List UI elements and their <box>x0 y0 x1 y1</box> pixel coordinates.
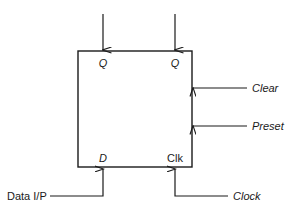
diagram-canvas <box>0 0 293 217</box>
preset-input-label: Preset <box>252 121 284 132</box>
data-input-wire <box>50 169 103 196</box>
clock-input-source-label: Clock <box>233 191 261 202</box>
clear-input-label: Clear <box>252 83 278 94</box>
flip-flop-diagram: Q Q Clear Preset D Clk Data I/P Clock <box>0 0 293 217</box>
q-bar-output-label: Q <box>171 58 180 69</box>
clock-input-wire <box>175 169 228 196</box>
q-output-label: Q <box>99 58 108 69</box>
clk-input-label: Clk <box>167 153 183 164</box>
data-input-source-label: Data I/P <box>7 191 47 202</box>
d-input-label: D <box>99 153 107 164</box>
